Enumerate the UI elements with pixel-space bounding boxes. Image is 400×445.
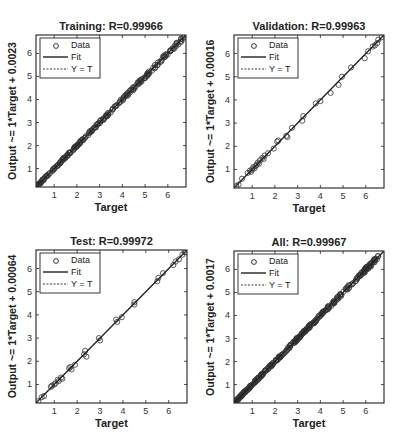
- legend: DataFitY = T: [40, 38, 100, 78]
- y-tick-label: 5: [225, 287, 230, 297]
- legend-entry: Y = T: [71, 279, 93, 289]
- y-tick-label: 3: [225, 334, 230, 344]
- x-tick-label: 2: [272, 191, 277, 201]
- x-tick-label: 6: [165, 190, 170, 200]
- y-tick-label: 2: [27, 356, 32, 366]
- x-tick-label: 5: [341, 406, 346, 416]
- plot-title: All: R=0.99967: [272, 236, 347, 248]
- legend-entry: Fit: [71, 52, 81, 62]
- x-tick-label: 3: [97, 190, 102, 200]
- test-regression-plot: Test: R=0.99972 Target Output ~= 1*Targe…: [6, 235, 188, 429]
- plot-title: Validation: R=0.99963: [253, 20, 366, 32]
- legend: DataFitY = T: [238, 38, 298, 78]
- y-axis-label: Output ~= 1*Target + 0.00016: [204, 40, 216, 184]
- legend-entry: Data: [71, 255, 90, 265]
- x-tick-label: 5: [143, 190, 148, 200]
- x-tick-label: 1: [250, 406, 255, 416]
- legend-entry: Data: [269, 40, 288, 50]
- legend-entry: Fit: [71, 267, 81, 277]
- y-tick-label: 6: [27, 48, 32, 58]
- x-tick-label: 4: [318, 191, 323, 201]
- y-axis-label: Output ~= 1*Target + 0.00064: [6, 255, 18, 399]
- x-tick-label: 4: [120, 190, 125, 200]
- y-tick-label: 1: [225, 380, 230, 390]
- x-axis-label: Target: [293, 417, 326, 429]
- y-tick-label: 2: [225, 141, 230, 151]
- x-tick-label: 1: [52, 406, 57, 416]
- legend-entry: Data: [269, 256, 288, 266]
- x-tick-label: 3: [295, 191, 300, 201]
- y-tick-label: 5: [27, 287, 32, 297]
- y-tick-label: 1: [27, 379, 32, 389]
- y-tick-label: 5: [225, 72, 230, 82]
- y-tick-label: 6: [225, 49, 230, 59]
- legend: DataFitY = T: [238, 254, 298, 294]
- plot-title: Test: R=0.99972: [70, 235, 153, 247]
- x-tick-label: 5: [341, 191, 346, 201]
- y-tick-label: 4: [225, 310, 230, 320]
- x-tick-label: 2: [74, 190, 79, 200]
- y-tick-label: 2: [27, 141, 32, 151]
- x-tick-label: 4: [120, 406, 125, 416]
- legend-entry: Fit: [269, 52, 279, 62]
- legend-entry: Y = T: [269, 280, 291, 290]
- y-tick-label: 4: [225, 95, 230, 105]
- y-axis-label: Output ~= 1*Target + 0.0023: [6, 42, 18, 180]
- x-tick-label: 6: [363, 406, 368, 416]
- legend-entry: Y = T: [71, 64, 93, 74]
- x-tick-label: 3: [295, 406, 300, 416]
- x-tick-label: 3: [98, 406, 103, 416]
- x-axis-label: Target: [95, 201, 128, 213]
- y-tick-label: 1: [27, 164, 32, 174]
- x-tick-label: 1: [250, 191, 255, 201]
- all-regression-plot: All: R=0.99967 Target Output ~= 1*Target…: [204, 236, 384, 429]
- regression-figure: Training: R=0.99966 Target Output ~= 1*T…: [0, 0, 400, 445]
- legend: DataFitY = T: [40, 253, 100, 293]
- y-tick-label: 1: [225, 164, 230, 174]
- y-tick-label: 2: [225, 357, 230, 367]
- y-tick-label: 3: [27, 118, 32, 128]
- y-tick-label: 6: [27, 264, 32, 274]
- legend-entry: Data: [71, 40, 90, 50]
- x-tick-label: 1: [52, 190, 57, 200]
- legend-entry: Y = T: [269, 64, 291, 74]
- x-tick-label: 5: [143, 406, 148, 416]
- y-tick-label: 5: [27, 71, 32, 81]
- x-axis-label: Target: [293, 202, 326, 214]
- y-tick-label: 4: [27, 310, 32, 320]
- y-tick-label: 6: [225, 264, 230, 274]
- y-axis-label: Output ~= 1*Target + 0.0017: [204, 258, 216, 396]
- x-tick-label: 4: [318, 406, 323, 416]
- x-tick-label: 6: [166, 406, 171, 416]
- x-tick-label: 2: [272, 406, 277, 416]
- x-tick-label: 6: [363, 191, 368, 201]
- x-tick-label: 2: [75, 406, 80, 416]
- y-tick-label: 3: [27, 333, 32, 343]
- y-tick-label: 4: [27, 94, 32, 104]
- legend-entry: Fit: [269, 268, 279, 278]
- validation-regression-plot: Validation: R=0.99963 Target Output ~= 1…: [204, 20, 384, 214]
- plot-title: Training: R=0.99966: [59, 20, 163, 32]
- x-axis-label: Target: [95, 417, 128, 429]
- y-tick-label: 3: [225, 118, 230, 128]
- training-regression-plot: Training: R=0.99966 Target Output ~= 1*T…: [6, 20, 187, 213]
